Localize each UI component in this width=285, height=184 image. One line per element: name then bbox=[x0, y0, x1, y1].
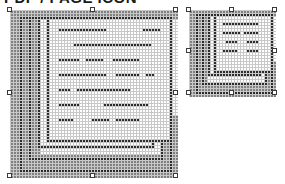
resize-handle-se[interactable] bbox=[173, 173, 178, 178]
resize-handle-nw[interactable] bbox=[186, 7, 191, 12]
resize-handle-nw[interactable] bbox=[7, 7, 12, 12]
resize-handle-sw[interactable] bbox=[186, 90, 191, 95]
resize-handle-n[interactable] bbox=[229, 7, 234, 12]
resize-handle-sw[interactable] bbox=[7, 173, 12, 178]
resize-handle-s[interactable] bbox=[229, 90, 234, 95]
small-page-icon-bitmap[interactable] bbox=[189, 10, 276, 97]
page-title: PDF / PAGE ICON bbox=[4, 0, 137, 6]
resize-handle-w[interactable] bbox=[7, 90, 12, 95]
small-page-icon[interactable] bbox=[189, 10, 276, 97]
resize-handle-e[interactable] bbox=[272, 48, 277, 53]
editor-canvas[interactable]: PDF / PAGE ICON bbox=[0, 0, 285, 184]
large-page-icon[interactable] bbox=[10, 10, 178, 178]
resize-handle-ne[interactable] bbox=[173, 7, 178, 12]
resize-handle-e[interactable] bbox=[173, 90, 178, 95]
resize-handle-w[interactable] bbox=[186, 48, 191, 53]
resize-handle-n[interactable] bbox=[90, 7, 95, 12]
resize-handle-ne[interactable] bbox=[272, 7, 277, 12]
resize-handle-se[interactable] bbox=[272, 90, 277, 95]
large-page-icon-bitmap[interactable] bbox=[10, 10, 178, 178]
resize-handle-s[interactable] bbox=[90, 173, 95, 178]
